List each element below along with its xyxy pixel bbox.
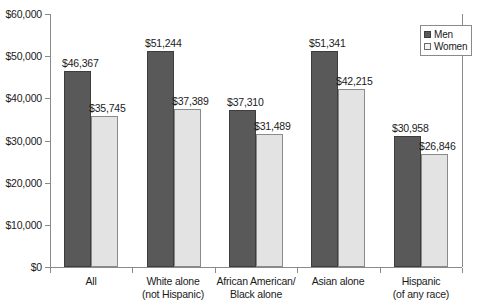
bar-value-label-women-0: $35,745 [89, 103, 126, 114]
bar-women-4 [421, 154, 448, 267]
bar-men-1 [147, 51, 174, 267]
bar-value-label-women-2: $31,489 [254, 121, 291, 132]
bar-chart: $60,000$50,000$40,000$30,000$20,000$10,0… [0, 0, 490, 306]
bar-value-label-women-4: $26,846 [419, 141, 456, 152]
bar-women-1 [174, 109, 201, 267]
bar-value-label-men-3: $51,341 [309, 38, 346, 49]
category-label-line1-0: All [85, 275, 96, 287]
y-tick-10000 [45, 225, 50, 226]
y-tick-label-50000: $50,000 [5, 51, 42, 62]
legend-swatch-men-icon [424, 31, 431, 38]
bar-value-label-men-4: $30,958 [392, 123, 429, 134]
y-tick-50000 [45, 56, 50, 57]
legend-item-women: Women [424, 40, 467, 52]
legend-item-men: Men [424, 28, 467, 40]
x-tick-1 [132, 268, 133, 273]
x-tick-5 [462, 268, 463, 273]
category-label-line1-3: Asian alone [312, 275, 365, 287]
legend-label-men: Men [434, 29, 453, 40]
category-label-line2-4: (of any race) [366, 288, 476, 301]
category-label-line2-2: Black alone [201, 288, 311, 301]
bar-women-0 [91, 116, 118, 267]
bar-men-2 [229, 110, 256, 267]
y-tick-60000 [45, 14, 50, 15]
bar-value-label-men-1: $51,244 [145, 38, 182, 49]
y-tick-label-60000: $60,000 [5, 9, 42, 20]
y-tick-label-40000: $40,000 [5, 93, 42, 104]
bar-men-0 [64, 71, 91, 267]
x-axis-line [50, 267, 462, 268]
bar-value-label-women-3: $42,215 [336, 76, 373, 87]
chart-legend: Men Women [420, 25, 472, 56]
x-tick-0 [50, 268, 51, 273]
category-label-line1-1: White alone [146, 275, 199, 287]
bar-women-3 [338, 89, 365, 267]
category-label-4: Hispanic(of any race) [366, 275, 476, 300]
legend-swatch-women-icon [424, 43, 431, 50]
bar-value-label-men-2: $37,310 [227, 97, 264, 108]
x-tick-3 [297, 268, 298, 273]
bar-men-3 [311, 51, 338, 267]
bar-men-4 [394, 136, 421, 267]
y-tick-40000 [45, 98, 50, 99]
y-tick-label-20000: $20,000 [5, 178, 42, 189]
category-label-line1-4: Hispanic [402, 275, 441, 287]
y-tick-30000 [45, 141, 50, 142]
x-tick-2 [215, 268, 216, 273]
legend-label-women: Women [434, 41, 467, 52]
y-tick-label-10000: $10,000 [5, 220, 42, 231]
x-tick-4 [380, 268, 381, 273]
y-tick-label-0: $0 [31, 262, 42, 273]
bar-value-label-men-0: $46,367 [62, 58, 99, 69]
bar-women-2 [256, 134, 283, 267]
bar-value-label-women-1: $37,389 [172, 96, 209, 107]
y-tick-label-30000: $30,000 [5, 136, 42, 147]
y-axis-line [50, 14, 51, 267]
y-tick-20000 [45, 183, 50, 184]
